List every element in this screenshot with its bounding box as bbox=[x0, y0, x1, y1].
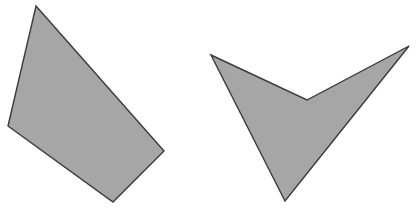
shape-svg-canvas bbox=[0, 0, 416, 208]
image-canvas bbox=[0, 0, 416, 208]
